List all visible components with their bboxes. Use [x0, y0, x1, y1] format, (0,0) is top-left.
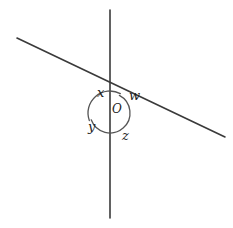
- angle-label-z: z: [122, 129, 129, 142]
- slanted-line: [17, 38, 225, 137]
- angle-label-w: w: [129, 89, 140, 102]
- geometry-figure: O x w y z: [0, 0, 233, 228]
- angle-label-y: y: [88, 120, 95, 133]
- angle-label-x: x: [97, 86, 104, 99]
- vertex-label-o: O: [112, 103, 122, 115]
